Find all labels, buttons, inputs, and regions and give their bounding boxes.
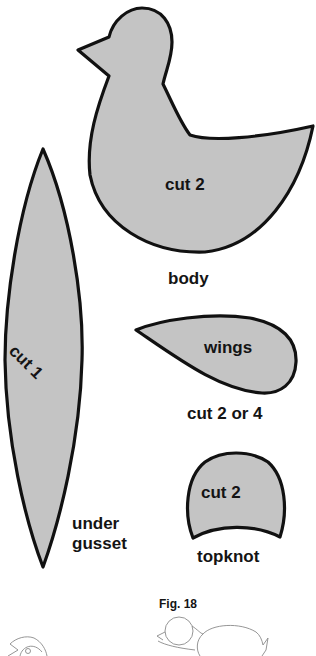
body-pattern-piece	[78, 8, 313, 252]
topknot-name-label: topknot	[197, 548, 259, 565]
duck-sketch-left	[8, 637, 47, 656]
topknot-instruction-label: cut 2	[201, 484, 241, 501]
under-gusset-name-line2: gusset	[72, 535, 127, 552]
body-name-label: body	[168, 270, 209, 287]
under-gusset-name-line1: under	[72, 515, 119, 532]
wings-name-label: wings	[204, 339, 252, 356]
duck-sketch-right	[157, 617, 268, 656]
pattern-pieces-illustration	[0, 0, 316, 656]
figure-caption: Fig. 18	[159, 598, 197, 610]
wings-instruction-label: cut 2 or 4	[187, 405, 263, 422]
body-instruction-label: cut 2	[165, 176, 205, 193]
pattern-page: cut 2 body cut 1 under gusset wings cut …	[0, 0, 316, 656]
